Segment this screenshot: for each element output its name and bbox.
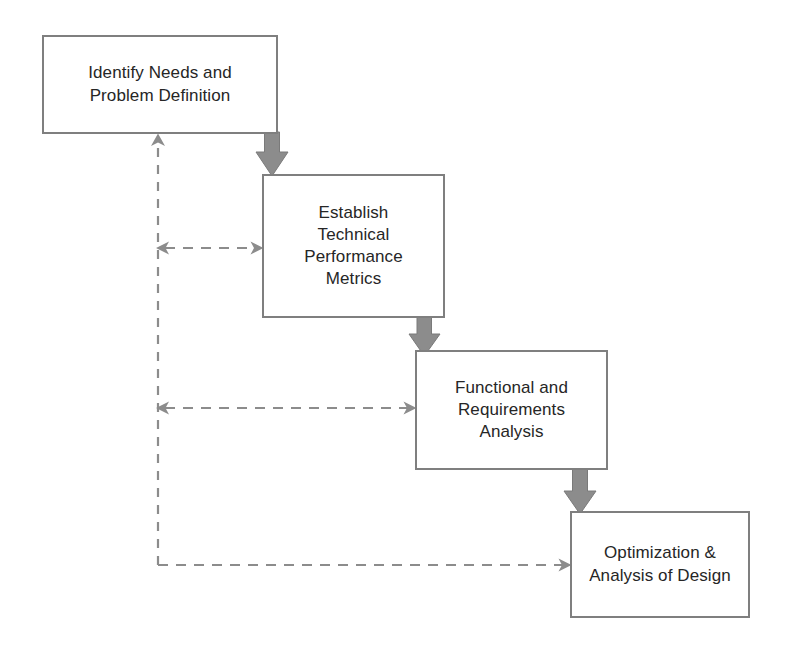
process-box-optimization-analysis-of-design[interactable]: Optimization & Analysis of Design xyxy=(570,511,750,618)
process-box-label: Identify Needs and Problem Definition xyxy=(80,60,240,108)
process-box-technical-performance-metrics[interactable]: Establish Technical Performance Metrics xyxy=(262,174,445,318)
arrow-step1-to-step2 xyxy=(256,132,288,176)
feedback-to-step4 xyxy=(158,559,572,572)
feedback-to-step3 xyxy=(156,402,417,415)
feedback-trunk-vertical xyxy=(151,134,165,566)
arrow-step3-to-step4 xyxy=(564,468,596,514)
process-box-label: Functional and Requirements Analysis xyxy=(447,375,576,445)
process-box-label: Establish Technical Performance Metrics xyxy=(296,200,410,292)
process-box-identify-needs[interactable]: Identify Needs and Problem Definition xyxy=(42,35,278,134)
process-box-functional-requirements-analysis[interactable]: Functional and Requirements Analysis xyxy=(415,350,608,470)
process-box-label: Optimization & Analysis of Design xyxy=(581,540,739,588)
feedback-to-step2 xyxy=(156,242,264,255)
flow-diagram-canvas: Identify Needs and Problem Definition Es… xyxy=(0,0,787,645)
